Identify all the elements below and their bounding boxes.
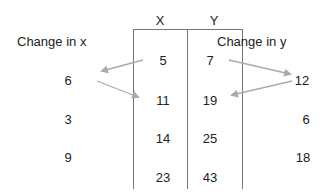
arrows (0, 0, 327, 196)
arrow-change-to-y2 (232, 81, 292, 95)
arrow-x1-to-change (102, 60, 143, 71)
arrow-y1-to-change (229, 60, 290, 74)
arrow-change-to-x2 (97, 81, 138, 97)
